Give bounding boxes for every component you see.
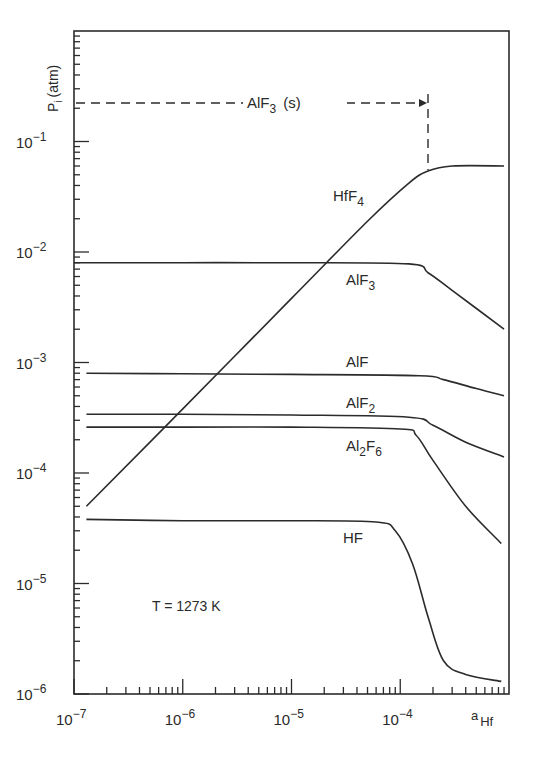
x-tick-label: 10−6 [165,707,196,728]
plot-area-border [74,31,509,694]
series-line-hff4 [86,166,504,507]
y-tick-label: 10−6 [16,682,47,703]
series-line-alf3 [74,263,504,330]
solid-phase-annotation: AlF3(s) [243,92,347,116]
plot-frame [74,31,509,694]
partial-pressure-chart: 10−110−210−310−410−510−610−710−610−510−4… [0,0,535,764]
series-label: AlF2 [346,394,376,416]
y-tick-label: 10−1 [16,130,47,151]
x-axis-label: aHf [471,708,494,729]
series-label: AlF [346,353,369,370]
series-line-hf [86,519,501,681]
series-label: Al2F6 [346,437,382,459]
arrow-head-icon [419,99,427,107]
data-series: HfF4AlF3AlFAlF2Al2F6HF [74,166,504,682]
series-label: HF [343,529,363,546]
y-tick-label: 10−5 [16,572,47,593]
series-label: HfF4 [333,187,364,209]
temperature-annotation: T = 1273 K [152,598,221,614]
y-tick-label: 10−3 [16,351,47,372]
y-tick-label: 10−2 [16,240,47,261]
series-line-alf [86,373,504,396]
x-tick-label: 10−4 [382,707,413,728]
y-axis-label: Pi(atm) [45,65,64,112]
x-tick-label: 10−7 [56,707,87,728]
y-tick-label: 10−4 [16,461,47,482]
series-label: AlF3 [346,271,376,293]
x-tick-label: 10−5 [274,707,305,728]
series-line-alf2 [86,414,504,457]
